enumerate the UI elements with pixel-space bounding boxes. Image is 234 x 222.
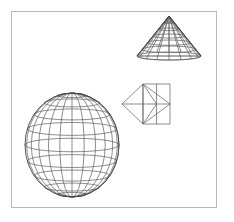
sphere-meridian xyxy=(72,93,117,197)
sphere-meridian xyxy=(31,93,72,197)
sphere-wireframe-object[interactable] xyxy=(25,93,119,197)
sphere-meridian xyxy=(60,93,72,197)
wireframe-scene-viewport xyxy=(0,0,234,222)
box-diagonal-inner-lower xyxy=(143,104,157,124)
scene-canvas xyxy=(0,0,234,222)
box-edge-lines xyxy=(122,84,170,124)
box-wireframe-object[interactable] xyxy=(122,84,170,124)
sphere-meridian xyxy=(48,93,72,197)
sphere-meridian xyxy=(72,93,113,197)
cone-wireframe-object[interactable] xyxy=(137,16,201,60)
sphere-meridian xyxy=(72,93,84,197)
sphere-meridian xyxy=(72,93,95,197)
box-diagonal-inner-upper xyxy=(143,84,157,104)
sphere-meridian xyxy=(27,93,72,197)
